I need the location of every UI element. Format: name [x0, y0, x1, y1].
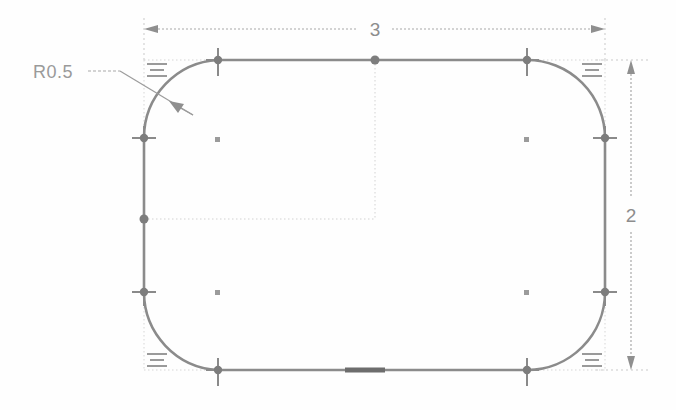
- height-arrow-top-icon: [627, 60, 635, 74]
- vertex-left-lower[interactable]: [132, 280, 156, 306]
- vertex-top-right[interactable]: [515, 48, 539, 76]
- midpoint-left-edge[interactable]: [140, 215, 149, 224]
- construction-bounding-box: [144, 60, 605, 370]
- drawing-canvas: 3 2 R0.5: [0, 0, 676, 410]
- radius-callout[interactable]: R0.5: [33, 62, 193, 115]
- constraint-equal-bottom-left[interactable]: [147, 354, 167, 366]
- width-dimension-value[interactable]: 3: [370, 19, 381, 40]
- constraint-equal-bottom-right[interactable]: [582, 354, 602, 366]
- height-dimension[interactable]: 2: [626, 60, 637, 370]
- width-arrow-right-icon: [591, 25, 605, 33]
- arc-center-top-left[interactable]: [215, 137, 220, 142]
- width-dimension[interactable]: 3: [144, 19, 605, 40]
- vertex-left-upper[interactable]: [132, 126, 156, 152]
- vertex-right-lower[interactable]: [593, 280, 617, 306]
- height-dimension-value[interactable]: 2: [626, 205, 637, 226]
- arc-center-bottom-right[interactable]: [524, 290, 529, 295]
- vertex-bottom-left[interactable]: [206, 358, 230, 386]
- arc-center-points[interactable]: [215, 137, 529, 295]
- interior-construction-rect: [144, 60, 375, 219]
- constraint-equal-top-right[interactable]: [582, 64, 602, 76]
- cad-sketch-svg: 3 2 R0.5: [0, 0, 676, 410]
- radius-callout-label[interactable]: R0.5: [33, 62, 73, 82]
- width-arrow-left-icon: [144, 25, 158, 33]
- radius-leader-arrow-icon: [169, 101, 184, 113]
- arc-center-bottom-left[interactable]: [215, 290, 220, 295]
- midpoint-handles[interactable]: [140, 56, 380, 224]
- extension-lines: [144, 18, 648, 370]
- height-arrow-bottom-icon: [627, 356, 635, 370]
- profile-outline[interactable]: [144, 60, 605, 370]
- vertex-bottom-right[interactable]: [515, 358, 539, 386]
- constraint-equal-top-left[interactable]: [147, 64, 167, 76]
- arc-center-top-right[interactable]: [524, 137, 529, 142]
- vertex-right-upper[interactable]: [593, 126, 617, 152]
- midpoint-top-edge[interactable]: [371, 56, 380, 65]
- rounded-rectangle-path[interactable]: [144, 60, 605, 370]
